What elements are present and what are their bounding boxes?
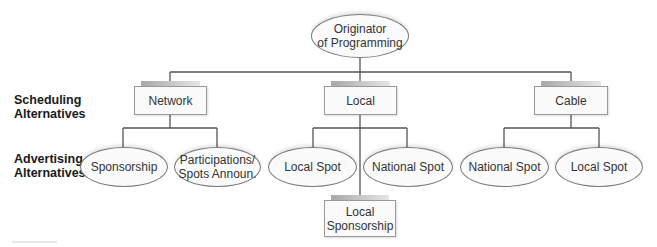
advertising-node-cable-local-spot: Local Spot xyxy=(555,147,643,187)
media-scheduling-diagram: Scheduling Alternatives Advertising Alte… xyxy=(0,0,657,247)
node-label: Sponsorship xyxy=(91,160,158,174)
advertising-node-local-spot: Local Spot xyxy=(268,147,357,187)
advertising-node-cable-national-spot: National Spot xyxy=(460,147,549,187)
node-label: Sponsorship xyxy=(327,219,394,233)
label-line: Advertising xyxy=(14,152,86,166)
scheduling-node-local: Local xyxy=(324,86,397,115)
advertising-node-participations: Participations/ Spots Announ. xyxy=(174,147,261,187)
node-label: Spots Announ. xyxy=(178,167,256,181)
node-label: National Spot xyxy=(468,160,540,174)
node-label: Cable xyxy=(555,94,586,108)
advertising-node-national-spot: National Spot xyxy=(363,147,453,187)
scheduling-alternatives-label: Scheduling Alternatives xyxy=(14,93,86,121)
node-label: National Spot xyxy=(372,160,444,174)
label-line: Alternatives xyxy=(14,107,86,121)
node-label: Local Spot xyxy=(284,160,341,174)
decorative-rule xyxy=(12,241,57,243)
node-label: Participations/ xyxy=(180,153,255,167)
node-label: Originator xyxy=(334,22,387,36)
label-line: Scheduling xyxy=(14,93,86,107)
scheduling-node-cable: Cable xyxy=(534,86,608,115)
node-label: Local xyxy=(346,205,375,219)
advertising-node-sponsorship: Sponsorship xyxy=(80,147,168,187)
node-label: Local xyxy=(346,94,375,108)
advertising-node-local-sponsorship: Local Sponsorship xyxy=(324,200,396,237)
scheduling-node-network: Network xyxy=(134,86,207,115)
advertising-alternatives-label: Advertising Alternatives xyxy=(14,152,86,180)
node-label: Network xyxy=(148,94,192,108)
root-node-originator: Originator of Programming xyxy=(311,14,409,58)
node-label: of Programming xyxy=(317,36,402,50)
label-line: Alternatives xyxy=(14,166,86,180)
node-label: Local Spot xyxy=(571,160,628,174)
